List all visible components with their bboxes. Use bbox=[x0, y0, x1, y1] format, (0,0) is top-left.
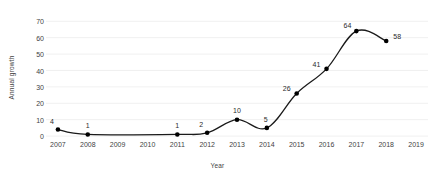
data-point-marker bbox=[384, 39, 389, 44]
x-axis-tick-label: 2011 bbox=[170, 141, 185, 148]
x-axis-tick-label: 2016 bbox=[319, 141, 335, 148]
x-axis-tick-label: 2008 bbox=[80, 141, 96, 148]
data-point-marker bbox=[175, 132, 180, 137]
data-point-label: 10 bbox=[233, 107, 241, 114]
x-axis-tick-label: 2007 bbox=[50, 141, 66, 148]
x-axis-tick-label: 2015 bbox=[289, 141, 305, 148]
x-axis-tick-label: 2010 bbox=[140, 141, 156, 148]
data-point-label: 64 bbox=[343, 22, 351, 29]
x-axis-tick-label: 2009 bbox=[110, 141, 126, 148]
y-axis-tick-label: 70 bbox=[20, 18, 44, 25]
x-axis-tick-label: 2019 bbox=[408, 141, 424, 148]
data-point-marker bbox=[85, 132, 90, 137]
y-axis-tick-label: 30 bbox=[20, 83, 44, 90]
data-point-marker bbox=[56, 127, 61, 132]
x-axis-ticks: 2007200820092010201120122013201420152016… bbox=[0, 141, 435, 155]
data-point-label: 26 bbox=[283, 85, 291, 92]
y-axis-tick-label: 40 bbox=[20, 67, 44, 74]
x-axis-tick-label: 2014 bbox=[259, 141, 275, 148]
data-point-label: 1 bbox=[86, 122, 90, 129]
data-point-marker bbox=[265, 126, 270, 131]
y-axis-tick-label: 60 bbox=[20, 34, 44, 41]
x-axis-tick-label: 2018 bbox=[378, 141, 394, 148]
x-axis-tick-label: 2017 bbox=[349, 141, 365, 148]
y-axis-tick-label: 10 bbox=[20, 116, 44, 123]
data-point-marker bbox=[354, 29, 359, 34]
data-point-marker bbox=[235, 117, 240, 122]
x-axis-tick-label: 2013 bbox=[229, 141, 245, 148]
data-point-marker bbox=[205, 131, 210, 136]
x-axis-title: Year bbox=[0, 162, 435, 169]
y-axis-tick-label: 0 bbox=[20, 133, 44, 140]
data-point-label: 4 bbox=[50, 118, 54, 125]
y-axis-tick-label: 20 bbox=[20, 100, 44, 107]
data-point-label: 2 bbox=[199, 121, 203, 128]
y-axis-title: Annual growth bbox=[8, 50, 15, 106]
data-point-label: 41 bbox=[313, 61, 321, 68]
y-axis-tick-label: 50 bbox=[20, 51, 44, 58]
data-point-label: 5 bbox=[264, 116, 268, 123]
data-point-markers bbox=[56, 29, 389, 137]
data-point-label: 1 bbox=[175, 122, 179, 129]
data-point-marker bbox=[324, 67, 329, 72]
line-chart: 010203040506070 200720082009201020112012… bbox=[0, 0, 435, 179]
data-point-label: 58 bbox=[393, 33, 401, 40]
data-point-marker bbox=[294, 91, 299, 96]
x-axis-tick-label: 2012 bbox=[199, 141, 215, 148]
series-line bbox=[58, 30, 386, 135]
